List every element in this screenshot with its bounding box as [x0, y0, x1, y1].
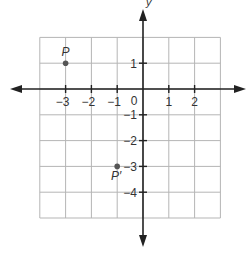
x-tick-label: −1: [107, 95, 121, 109]
x-tick-label: −2: [82, 95, 96, 109]
point-marker: [114, 164, 120, 170]
x-tick-label: 2: [191, 95, 198, 109]
coordinate-plane: y −3−2−1121−1−2−3−40 PP′: [0, 0, 249, 254]
x-tick-label: 1: [165, 95, 172, 109]
y-tick-label: −3: [123, 160, 137, 174]
tick-marks: −3−2−1121−1−2−3−40: [56, 57, 199, 200]
point-label: P′: [111, 169, 122, 183]
point-marker: [63, 60, 69, 66]
y-axis-down-arrow-icon: [139, 235, 147, 247]
x-axis-right-arrow-icon: [234, 85, 246, 93]
y-tick-label: 1: [130, 57, 137, 71]
origin-label: 0: [131, 94, 138, 108]
y-tick-label: −2: [123, 134, 137, 148]
x-tick-label: −3: [56, 95, 70, 109]
point-label: P: [62, 45, 70, 59]
y-tick-label: −1: [123, 108, 137, 122]
y-axis-up-arrow-icon: [139, 9, 147, 21]
y-axis-label: y: [145, 0, 153, 8]
y-tick-label: −4: [123, 186, 137, 200]
x-axis-left-arrow-icon: [10, 85, 22, 93]
